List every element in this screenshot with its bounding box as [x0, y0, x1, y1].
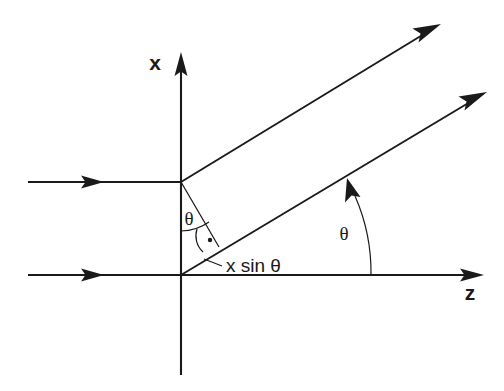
optics-path-difference-diagram: x z: [0, 0, 504, 391]
theta-right-label: θ: [339, 223, 348, 244]
diagram-canvas: x z: [0, 0, 504, 391]
diagram-background: [0, 0, 504, 391]
x-axis-label: x: [149, 51, 161, 74]
path-difference-label: x sin θ: [226, 255, 281, 276]
theta-left-label: θ: [184, 208, 193, 229]
right-angle-dot-icon: [208, 238, 212, 242]
z-axis-label: z: [465, 281, 476, 304]
